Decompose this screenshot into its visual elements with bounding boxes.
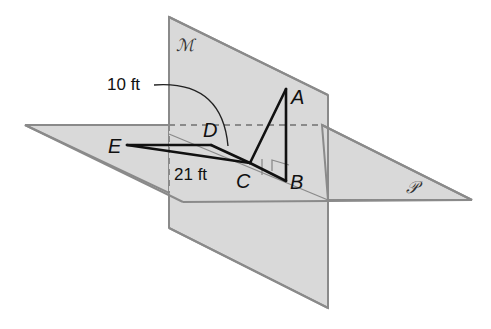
point-e-label: E xyxy=(108,135,122,157)
geometry-diagram: ℳ 𝒫 A B C D E 10 ft 21 ft xyxy=(0,0,491,329)
point-c-label: C xyxy=(236,170,251,192)
point-b-label: B xyxy=(290,171,303,193)
point-a-label: A xyxy=(290,86,304,108)
plane-m-label: ℳ xyxy=(176,35,197,55)
measurement-21ft-label: 21 ft xyxy=(174,165,207,184)
measurement-10ft-label: 10 ft xyxy=(107,75,140,94)
point-d-label: D xyxy=(203,119,217,141)
